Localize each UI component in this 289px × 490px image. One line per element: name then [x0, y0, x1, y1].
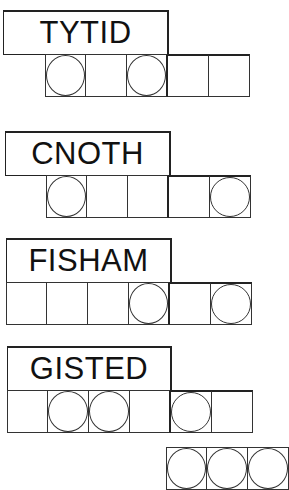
scrambled-word-label: TYTID	[3, 10, 169, 55]
circle-marker-icon	[47, 176, 86, 217]
scrambled-word-label: FISHAM	[6, 238, 172, 283]
letter-cell[interactable]	[170, 282, 211, 325]
scrambled-word-label: CNOTH	[5, 131, 171, 176]
letter-cell[interactable]	[47, 282, 88, 325]
answer-cells	[7, 390, 253, 433]
answer-cells	[46, 175, 251, 218]
letter-cell[interactable]	[7, 390, 48, 433]
final-letter-cell-circled[interactable]	[166, 447, 207, 490]
answer-cells	[6, 282, 252, 325]
letter-cell[interactable]	[6, 282, 47, 325]
letter-cell[interactable]	[212, 390, 253, 433]
circle-marker-icon	[248, 448, 288, 489]
letter-cell[interactable]	[128, 175, 169, 218]
letter-cell-circled[interactable]	[45, 54, 86, 97]
scrambled-word-label: GISTED	[7, 346, 172, 391]
letter-cell-circled[interactable]	[46, 175, 87, 218]
letter-cell[interactable]	[86, 54, 127, 97]
circle-marker-icon	[211, 284, 251, 324]
letter-cell-circled[interactable]	[129, 282, 170, 325]
circle-marker-icon	[46, 55, 85, 96]
answer-cells	[45, 54, 250, 97]
letter-cell-circled[interactable]	[48, 390, 89, 433]
letter-cell-circled[interactable]	[211, 282, 252, 325]
circle-marker-icon	[207, 448, 247, 489]
letter-cell-circled[interactable]	[127, 54, 168, 97]
letter-cell[interactable]	[169, 175, 210, 218]
final-letter-cell-circled[interactable]	[207, 447, 248, 490]
letter-cell-circled[interactable]	[89, 390, 130, 433]
letter-cell[interactable]	[168, 54, 209, 97]
letter-cell-circled[interactable]	[210, 175, 251, 218]
circle-marker-icon	[89, 391, 129, 432]
circle-marker-icon	[127, 55, 166, 96]
circle-marker-icon	[171, 392, 211, 432]
letter-cell[interactable]	[130, 390, 171, 433]
circle-marker-icon	[210, 177, 250, 217]
final-letter-cell-circled[interactable]	[248, 447, 289, 490]
circle-marker-icon	[48, 391, 88, 432]
circle-marker-icon	[129, 283, 168, 324]
letter-cell[interactable]	[209, 54, 250, 97]
letter-cell-circled[interactable]	[171, 390, 212, 433]
circle-marker-icon	[167, 448, 206, 489]
letter-cell[interactable]	[87, 175, 128, 218]
letter-cell[interactable]	[88, 282, 129, 325]
final-answer-cells	[166, 447, 289, 490]
